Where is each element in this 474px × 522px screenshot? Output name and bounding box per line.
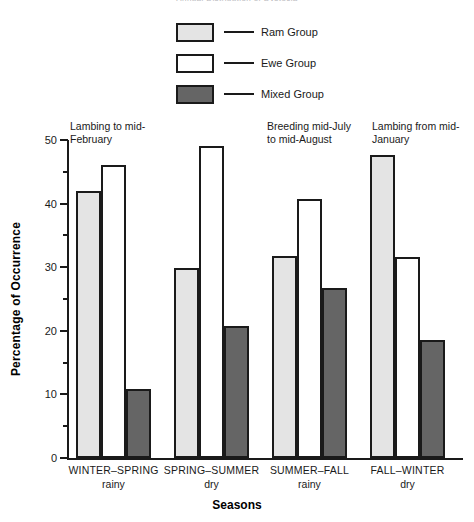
- y-tick-minor: [63, 425, 68, 427]
- bar-mixed: [420, 340, 445, 458]
- y-tick-label: 20: [45, 325, 57, 337]
- x-category-label: WINTER–SPRINGrainy: [59, 464, 169, 490]
- legend-swatch-ewe: [176, 54, 214, 73]
- legend-label-ewe: Ewe Group: [261, 57, 316, 69]
- y-tick-label: 0: [51, 452, 57, 464]
- y-tick-minor: [63, 362, 68, 364]
- bar-ram: [174, 268, 199, 458]
- bar-ewe: [101, 165, 126, 458]
- bar-ewe: [297, 199, 322, 458]
- x-category-label: SPRING–SUMMERdry: [157, 464, 267, 490]
- y-tick-major: [60, 393, 68, 395]
- y-tick-label: 40: [45, 198, 57, 210]
- y-tick-major: [60, 330, 68, 332]
- x-category-label: SUMMER–FALLrainy: [255, 464, 365, 490]
- x-category-name: SPRING–SUMMER: [164, 464, 259, 476]
- legend-item-mixed: Mixed Group: [176, 84, 324, 104]
- x-category-sublabel: dry: [157, 478, 267, 490]
- legend-swatch-mixed: [176, 85, 214, 104]
- legend-connector-line: [224, 31, 254, 33]
- y-tick-minor: [63, 234, 68, 236]
- legend-swatch-ram: [176, 23, 214, 42]
- chart-legend: Ram Group Ewe Group Mixed Group: [176, 22, 324, 115]
- y-tick-minor: [63, 298, 68, 300]
- x-category-sublabel: rainy: [255, 478, 365, 490]
- chart-title-clipped: Annual Distribution of Dystocia: [0, 0, 474, 1]
- x-axis-title: Seasons: [0, 498, 474, 512]
- y-tick-major: [60, 266, 68, 268]
- x-category-sublabel: rainy: [59, 478, 169, 490]
- x-category-label: FALL–WINTERdry: [353, 464, 463, 490]
- x-category-sublabel: dry: [353, 478, 463, 490]
- bar-mixed: [224, 326, 249, 458]
- legend-label-ram: Ram Group: [261, 26, 318, 38]
- x-category-name: FALL–WINTER: [371, 464, 445, 476]
- legend-connector-line: [224, 93, 254, 95]
- legend-item-ewe: Ewe Group: [176, 53, 324, 73]
- x-axis-line: [67, 458, 463, 460]
- x-category-name: SUMMER–FALL: [270, 464, 349, 476]
- bar-ewe: [395, 257, 420, 458]
- bar-ram: [272, 256, 297, 458]
- bar-mixed: [322, 288, 347, 458]
- bar-mixed: [126, 389, 151, 458]
- y-tick-label: 10: [45, 388, 57, 400]
- legend-label-mixed: Mixed Group: [261, 88, 324, 100]
- bar-ram: [76, 191, 101, 458]
- x-category-name: WINTER–SPRING: [68, 464, 158, 476]
- y-tick-minor: [63, 171, 68, 173]
- y-tick-major: [60, 203, 68, 205]
- bar-chart: Annual Distribution of Dystocia Ram Grou…: [0, 0, 474, 522]
- bar-ram: [370, 155, 395, 458]
- y-tick-major: [60, 457, 68, 459]
- legend-connector-line: [224, 62, 254, 64]
- y-tick-label: 50: [45, 134, 57, 146]
- y-axis-title: Percentage of Occurrence: [6, 140, 26, 458]
- y-tick-label: 30: [45, 261, 57, 273]
- bar-ewe: [199, 146, 224, 458]
- y-tick-major: [60, 139, 68, 141]
- legend-item-ram: Ram Group: [176, 22, 324, 42]
- y-axis-title-text: Percentage of Occurrence: [9, 222, 23, 376]
- plot-area: 01020304050: [68, 140, 462, 458]
